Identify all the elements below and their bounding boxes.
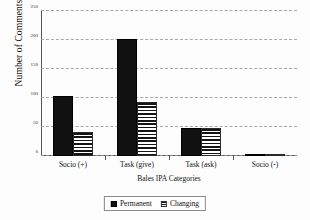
- legend-item: Changing: [161, 199, 199, 208]
- y-axis-tick-label: 250: [31, 4, 39, 9]
- legend-item: Permanent: [111, 199, 152, 208]
- legend-swatch-changing: [161, 201, 167, 207]
- bar-permanent: [181, 128, 201, 156]
- bar-permanent: [53, 96, 73, 156]
- legend-label: Permanent: [120, 199, 152, 208]
- bar-changing: [265, 154, 285, 156]
- bar-group: [105, 11, 169, 156]
- y-axis-tick-label: 50: [33, 120, 38, 125]
- y-axis-tick-label: 150: [31, 62, 39, 67]
- y-axis-tick-label: 100: [31, 91, 39, 96]
- bar-group: [41, 11, 105, 156]
- bar-changing: [137, 102, 157, 156]
- y-axis-tick-label: 200: [31, 33, 39, 38]
- y-axis-title: Number of Comments: [14, 0, 24, 108]
- plot-inner: 050100150200250: [41, 11, 297, 156]
- bar-group: [233, 11, 297, 156]
- bar-chart-figure: Number of Comments 050100150200250 Socio…: [0, 0, 310, 220]
- chart-legend: PermanentChanging: [104, 196, 206, 211]
- legend-swatch-permanent: [111, 201, 117, 207]
- x-axis-category-label: Socio (+): [59, 160, 87, 169]
- y-axis-tick-label: 0: [36, 149, 39, 154]
- bar-changing: [73, 132, 93, 156]
- x-axis-category-label: Socio (-): [252, 160, 278, 169]
- legend-label: Changing: [170, 199, 199, 208]
- bar-group: [169, 11, 233, 156]
- x-axis-category-label: Task (give): [120, 160, 154, 169]
- bar-changing: [201, 128, 221, 156]
- x-axis-title: Bales IPA Categories: [41, 174, 297, 183]
- bar-permanent: [117, 39, 137, 156]
- x-axis-tick-labels: Socio (+)Task (give)Task (ask)Socio (-): [41, 160, 297, 172]
- bar-permanent: [245, 154, 265, 156]
- x-axis-category-label: Task (ask): [186, 160, 217, 169]
- plot-area: 050100150200250: [41, 11, 297, 156]
